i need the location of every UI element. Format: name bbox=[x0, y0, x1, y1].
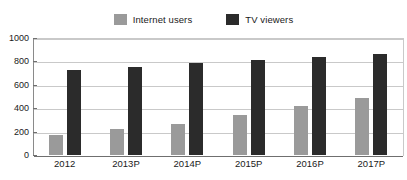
bar-group-2012 bbox=[34, 38, 95, 155]
x-tick-label-2016P: 2016P bbox=[296, 158, 323, 170]
y-tick-label-600: 600 bbox=[14, 80, 29, 90]
bar-2016P-internet-users[interactable] bbox=[294, 106, 308, 155]
bar-2013P-tv-viewers[interactable] bbox=[128, 67, 142, 155]
bar-2016P-tv-viewers[interactable] bbox=[312, 57, 326, 155]
bar-group-2016P bbox=[279, 38, 340, 155]
y-axis: 02004006008001000 bbox=[0, 38, 29, 155]
bar-2013P-internet-users[interactable] bbox=[110, 129, 124, 155]
y-tick-mark-400 bbox=[33, 108, 37, 109]
x-tick-label-2017P: 2017P bbox=[358, 158, 385, 170]
bar-group-2017P bbox=[341, 38, 402, 155]
bar-2012-internet-users[interactable] bbox=[49, 135, 63, 155]
bar-2014P-tv-viewers[interactable] bbox=[189, 63, 203, 155]
bar-chart-figure: Internet usersTV viewers 020040060080010… bbox=[0, 0, 407, 180]
x-axis: 20122013P2014P2015P2016P2017P bbox=[34, 158, 402, 174]
y-tick-mark-200 bbox=[33, 132, 37, 133]
y-tick-mark-1000 bbox=[33, 38, 37, 39]
x-tick-label-2014P: 2014P bbox=[174, 158, 201, 170]
bar-2012-tv-viewers[interactable] bbox=[67, 70, 81, 155]
x-tick-label-2012: 2012 bbox=[54, 158, 75, 170]
bar-2017P-tv-viewers[interactable] bbox=[373, 54, 387, 155]
y-tick-label-200: 200 bbox=[14, 127, 29, 137]
y-tick-label-400: 400 bbox=[14, 103, 29, 113]
legend-label-0: Internet users bbox=[133, 14, 193, 25]
bar-2014P-internet-users[interactable] bbox=[171, 124, 185, 155]
bars-layer bbox=[34, 38, 402, 155]
bar-group-2015P bbox=[218, 38, 279, 155]
y-tick-label-800: 800 bbox=[14, 56, 29, 66]
legend-swatch-tv-viewers bbox=[226, 14, 239, 25]
legend-label-1: TV viewers bbox=[245, 14, 293, 25]
chart-legend: Internet usersTV viewers bbox=[0, 8, 407, 30]
x-tick-label-2015P: 2015P bbox=[235, 158, 262, 170]
bar-group-2014P bbox=[157, 38, 218, 155]
bar-2015P-internet-users[interactable] bbox=[233, 115, 247, 155]
bar-group-2013P bbox=[95, 38, 156, 155]
legend-swatch-internet-users bbox=[114, 14, 127, 25]
bar-2017P-internet-users[interactable] bbox=[355, 98, 369, 155]
y-tick-mark-0 bbox=[33, 155, 37, 156]
legend-entry-1[interactable]: TV viewers bbox=[226, 14, 293, 25]
y-tick-mark-800 bbox=[33, 61, 37, 62]
y-tick-mark-600 bbox=[33, 85, 37, 86]
gridline-0 bbox=[34, 156, 403, 157]
y-tick-label-0: 0 bbox=[24, 150, 29, 160]
y-tick-label-1000: 1000 bbox=[9, 33, 29, 43]
x-tick-label-2013P: 2013P bbox=[112, 158, 139, 170]
bar-2015P-tv-viewers[interactable] bbox=[251, 60, 265, 155]
legend-entry-0[interactable]: Internet users bbox=[114, 14, 193, 25]
